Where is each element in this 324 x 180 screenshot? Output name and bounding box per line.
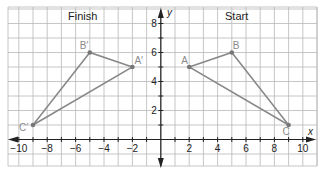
x-tick-label: −6 xyxy=(70,143,82,154)
x-tick-label: −8 xyxy=(41,143,53,154)
x-tick-label: 10 xyxy=(297,143,309,154)
y-tick-label: 2 xyxy=(151,105,157,116)
vertex-label: B′ xyxy=(80,40,89,51)
y-arrow-down-icon xyxy=(158,158,164,168)
y-tick-label: 4 xyxy=(151,76,157,87)
coordinate-plane: −10−8−6−4−22468102468 Finish Start y x A… xyxy=(0,0,324,180)
x-tick-label: 2 xyxy=(186,143,192,154)
x-tick-label: 8 xyxy=(272,143,278,154)
x-tick-label: −10 xyxy=(10,143,27,154)
x-axis-label: x xyxy=(307,126,314,137)
y-arrow-up-icon xyxy=(158,8,164,18)
triangle-edges xyxy=(189,53,288,126)
triangle-finish: A′B′C′ xyxy=(19,40,143,134)
vertex-label: A xyxy=(181,55,188,66)
y-tick-label: 8 xyxy=(151,18,157,29)
vertex-label: A′ xyxy=(134,55,143,66)
title-finish: Finish xyxy=(68,10,97,22)
vertex-point xyxy=(31,123,36,128)
vertex-label: C′ xyxy=(19,122,28,133)
y-axis-label: y xyxy=(166,7,173,18)
vertex-point xyxy=(88,50,93,55)
x-tick-label: 4 xyxy=(215,143,221,154)
axes xyxy=(8,8,316,168)
x-tick-label: −2 xyxy=(127,143,139,154)
y-tick-label: 6 xyxy=(151,47,157,58)
title-start: Start xyxy=(225,10,248,22)
triangle-edges xyxy=(33,53,132,126)
x-tick-label: 6 xyxy=(243,143,249,154)
vertex-point xyxy=(230,50,235,55)
vertex-label: C xyxy=(283,126,290,137)
vertex-label: B xyxy=(233,40,240,51)
x-tick-label: −4 xyxy=(98,143,110,154)
